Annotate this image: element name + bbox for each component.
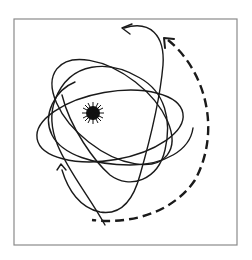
diagram-svg — [0, 0, 252, 260]
nucleus-icon — [82, 102, 104, 124]
diagram-frame — [14, 19, 237, 245]
atom-diagram: atom model with electron orbits — [0, 0, 252, 260]
